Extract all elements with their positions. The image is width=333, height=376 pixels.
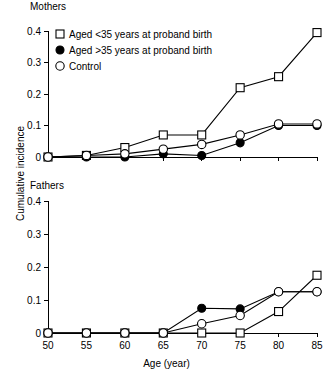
data-point-open-square: [236, 84, 244, 92]
data-point-open-circle: [82, 151, 90, 159]
panel-title-fathers: Fathers: [30, 180, 64, 191]
y-tick-label: 0.2: [27, 262, 41, 273]
legend-label: Aged <35 years at proband birth: [69, 29, 212, 40]
data-point-open-circle: [274, 288, 282, 296]
y-axis-label: Cumulative incidence: [15, 109, 26, 239]
data-point-open-circle: [44, 329, 52, 337]
data-point-open-circle: [121, 150, 129, 158]
open-square-icon: [56, 30, 64, 38]
data-point-open-square: [313, 271, 321, 279]
y-tick-label: 0.1: [27, 295, 41, 306]
y-tick-label: 0: [35, 152, 41, 163]
data-point-open-square: [198, 131, 206, 139]
y-tick-label: 0.3: [27, 57, 41, 68]
data-point-open-circle: [82, 329, 90, 337]
panel-title-mothers: Mothers: [30, 1, 66, 12]
data-point-open-square: [275, 73, 283, 81]
y-tick-label: 0: [35, 328, 41, 339]
data-point-open-circle: [274, 120, 282, 128]
data-point-open-circle: [313, 120, 321, 128]
data-point-open-square: [275, 308, 283, 316]
data-point-open-circle: [159, 145, 167, 153]
chart-legend: Aged <35 years at proband birthAged >35 …: [56, 29, 212, 72]
x-tick-label: 65: [158, 340, 170, 351]
data-point-open-circle: [44, 153, 52, 161]
x-tick-label: 80: [273, 340, 285, 351]
y-tick-label: 0.2: [27, 89, 41, 100]
legend-label: Control: [69, 61, 101, 72]
legend-label: Aged >35 years at proband birth: [69, 45, 212, 56]
data-point-open-circle: [159, 329, 167, 337]
y-tick-label: 0.3: [27, 229, 41, 240]
data-point-open-square: [313, 29, 321, 37]
x-tick-label: 85: [311, 340, 323, 351]
data-point-filled-circle: [236, 139, 244, 147]
data-point-open-circle: [198, 320, 206, 328]
cumulative-incidence-figure: Mothers Fathers Cumulative incidence Age…: [0, 0, 333, 376]
data-point-open-circle: [236, 131, 244, 139]
y-tick-label: 0.4: [27, 26, 41, 37]
filled-circle-icon: [56, 46, 64, 54]
x-tick-label: 60: [119, 340, 131, 351]
data-point-filled-circle: [198, 151, 206, 159]
y-tick-label: 0.1: [27, 120, 41, 131]
data-point-open-circle: [313, 288, 321, 296]
x-tick-label: 70: [196, 340, 208, 351]
x-tick-label: 50: [42, 340, 54, 351]
data-point-open-square: [236, 329, 244, 337]
series-line-open-square: [48, 275, 317, 333]
data-point-filled-circle: [198, 304, 206, 312]
data-point-open-square: [198, 329, 206, 337]
y-tick-label: 0.4: [27, 196, 41, 207]
x-axis-label: Age (year): [0, 358, 333, 369]
panel-fathers: 00.10.20.30.45055606570758085: [27, 196, 323, 351]
data-point-open-square: [159, 131, 167, 139]
data-point-open-circle: [236, 311, 244, 319]
open-circle-icon: [56, 62, 64, 70]
data-point-open-circle: [198, 140, 206, 148]
data-point-open-circle: [121, 329, 129, 337]
x-tick-label: 75: [235, 340, 247, 351]
x-tick-label: 55: [81, 340, 93, 351]
